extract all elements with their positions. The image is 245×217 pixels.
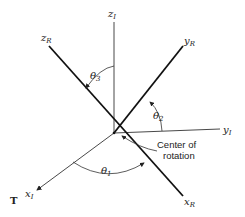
y-inertial-label: yI [222,124,232,137]
figure-marker-t: T [10,195,18,206]
rotation-diagram: zI zR yR yI xI xR θ3 θ2 θ1 Center of rot… [0,0,245,217]
z-rotated-label: zR [40,32,52,45]
x-inertial-label: xI [25,188,34,201]
y-rotated-label: yR [183,35,196,48]
y-inertial-axis [114,129,220,133]
center-of-rotation-label-line1: Center of [157,139,196,150]
center-of-rotation-point [113,132,116,135]
z-inertial-label: zI [107,8,116,21]
center-of-rotation-label-line2: rotation [163,150,195,161]
x-inertial-axis [37,133,114,190]
theta1-label: θ1 [101,165,112,178]
y-rotated-axis [114,46,183,133]
theta2-label: θ2 [153,110,164,123]
center-leader [122,136,157,151]
x-rotated-label: xR [184,196,196,209]
